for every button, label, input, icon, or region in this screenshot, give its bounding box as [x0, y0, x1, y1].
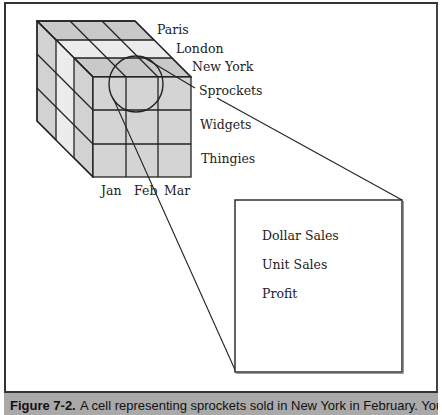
figure-caption: Figure 7-2.A cell representing sprockets… — [4, 391, 438, 415]
depth-label-london: London — [176, 43, 223, 56]
measure-dollar-sales: Dollar Sales — [262, 230, 339, 243]
measure-profit: Profit — [262, 288, 297, 301]
depth-label-new-york: New York — [192, 61, 253, 74]
figure-number: Figure 7-2. — [10, 398, 80, 413]
depth-label-paris: Paris — [157, 24, 189, 37]
row-label-widgets: Widgets — [200, 119, 251, 132]
column-label-jan: Jan — [101, 185, 122, 198]
column-label-mar: Mar — [164, 185, 190, 198]
column-label-feb: Feb — [134, 185, 157, 198]
row-label-thingies: Thingies — [201, 153, 255, 166]
row-label-sprockets: Sprockets — [199, 85, 262, 98]
measure-unit-sales: Unit Sales — [262, 259, 327, 272]
callout-box — [235, 200, 402, 372]
caption-text: A cell representing sprockets sold in Ne… — [80, 398, 438, 413]
